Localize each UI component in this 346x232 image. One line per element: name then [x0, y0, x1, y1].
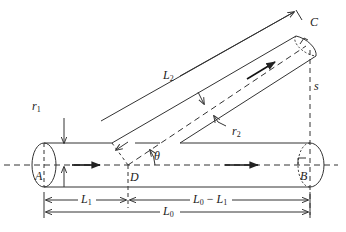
label-r2: r2 [232, 125, 241, 139]
l2-dimension-line [180, 12, 294, 76]
label-l1: L1 [81, 193, 92, 207]
label-s: s [314, 80, 319, 92]
branch-lower-wall [180, 56, 316, 143]
junction-pointer [116, 142, 128, 150]
l2-end-tick [296, 10, 302, 20]
junction-dashed [112, 143, 128, 165]
label-theta: θ [154, 150, 160, 162]
branch-upper-wall [112, 36, 296, 143]
label-point-b: B [300, 170, 307, 182]
label-point-d: D [130, 171, 139, 183]
right-angle-mark-b [298, 158, 306, 165]
flow-arrow-branch [247, 62, 275, 79]
label-l0: L0 [163, 205, 174, 219]
branch-centerline [128, 46, 306, 165]
pipe-diagram [0, 0, 346, 232]
label-l0-minus-l1: L0 − L1 [193, 193, 227, 207]
label-point-c: C [310, 16, 318, 28]
label-point-a: A [35, 170, 42, 182]
label-r1: r1 [32, 100, 41, 114]
branch-pipe [112, 36, 316, 143]
label-l2: L2 [163, 69, 174, 83]
l2-wall-pointer [198, 92, 204, 104]
